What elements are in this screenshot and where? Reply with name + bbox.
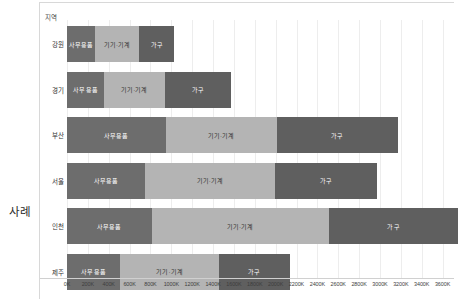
x-tick-label: 2400K: [310, 281, 325, 287]
bar-segment[interactable]: 기기·기계: [95, 26, 139, 62]
x-tick-label: 2200K: [289, 281, 304, 287]
bar-segment[interactable]: 가구: [139, 26, 174, 62]
row-label: 인천: [40, 221, 64, 231]
bar-segment-label: 가구: [320, 176, 332, 185]
bar-segment[interactable]: 사무용품: [67, 26, 95, 62]
row-label: 서울: [40, 176, 64, 186]
x-tick-label: 600K: [123, 281, 135, 287]
bar-segment-label: 가구: [248, 267, 260, 276]
chart-top-divider: [39, 2, 454, 3]
bar-segment[interactable]: 가구: [165, 72, 231, 108]
x-tick-label: 400K: [103, 281, 115, 287]
bar-segment-label: 사무용품: [97, 222, 121, 231]
bar-segment-label: 기기·기계: [121, 85, 148, 94]
bar-segment[interactable]: 기기·기계: [104, 72, 165, 108]
x-tick-label: 1200K: [185, 281, 200, 287]
bar-segment[interactable]: 가구: [329, 208, 458, 244]
row-label: 제주: [40, 267, 64, 277]
stacked-bar[interactable]: 사무용품기기·기계가구: [67, 163, 377, 199]
x-tick-label: 1400K: [205, 281, 220, 287]
bar-segment[interactable]: 기기·기계: [145, 163, 274, 199]
bar-segment-label: 가구: [151, 40, 163, 49]
x-tick-label: 1800K: [247, 281, 262, 287]
stacked-bar[interactable]: 사무용품기기·기계가구: [67, 26, 174, 62]
bar-segment-label: 사무용품: [69, 40, 93, 49]
bar-segment-label: 기기·기계: [197, 176, 224, 185]
row-label: 부산: [40, 130, 64, 140]
bar-segment[interactable]: 사무용품: [67, 72, 104, 108]
row-field-caption: 사례: [3, 203, 37, 219]
x-tick-label: 3400K: [414, 281, 429, 287]
bar-segment[interactable]: 사무용품: [67, 208, 152, 244]
bar-segment-label: 사무용품: [104, 131, 128, 140]
x-tick-label: 2600K: [331, 281, 346, 287]
x-tick-label: 1600K: [226, 281, 241, 287]
bar-segment-label: 기기·기계: [156, 267, 183, 276]
bar-segment[interactable]: 사무용품: [67, 163, 145, 199]
bar-segment-label: 기기·기계: [104, 40, 131, 49]
bar-segment-label: 사무용품: [94, 176, 118, 185]
x-tick-label: 200K: [82, 281, 94, 287]
x-tick-label: 3000K: [372, 281, 387, 287]
x-tick-label: 2000K: [268, 281, 283, 287]
bar-row: 인천사무용품기기·기계가구: [40, 208, 454, 244]
x-tick-label: 1000K: [164, 281, 179, 287]
row-label: 강원: [40, 39, 64, 49]
x-tick-label: 3200K: [393, 281, 408, 287]
bar-segment[interactable]: 기기·기계: [166, 117, 277, 153]
bar-segment[interactable]: 기기·기계: [152, 208, 329, 244]
bar-segment-label: 사무용품: [73, 85, 97, 94]
bar-segment-label: 가구: [331, 131, 343, 140]
stacked-bar[interactable]: 사무용품기기·기계가구: [67, 72, 231, 108]
bar-row: 부산사무용품기기·기계가구: [40, 117, 454, 153]
stacked-bar[interactable]: 사무용품기기·기계가구: [67, 117, 398, 153]
bar-row: 강원사무용품기기·기계가구: [40, 26, 454, 62]
x-tick-label: 800K: [144, 281, 156, 287]
bar-segment-label: 기기·기계: [227, 222, 254, 231]
bar-segment[interactable]: 가구: [277, 117, 399, 153]
row-label: 경기: [40, 85, 64, 95]
bar-segment-label: 기기·기계: [208, 131, 235, 140]
bar-row: 서울사무용품기기·기계가구: [40, 163, 454, 199]
plot-area: 강원사무용품기기·기계가구경기사무용품기기·기계가구부산사무용품기기·기계가구서…: [40, 20, 454, 278]
x-tick-label: 0K: [64, 281, 71, 287]
x-tick-label: 3600K: [435, 281, 450, 287]
bar-segment-label: 가구: [192, 85, 204, 94]
bar-segment-label: 사무용품: [81, 267, 105, 276]
x-tick-label: 2800K: [351, 281, 366, 287]
bar-segment[interactable]: 가구: [275, 163, 377, 199]
x-axis-rule: [40, 278, 454, 279]
bar-segment[interactable]: 사무용품: [67, 117, 166, 153]
stacked-bar[interactable]: 사무용품기기·기계가구: [67, 208, 458, 244]
bar-segment-label: 가구: [387, 222, 399, 231]
x-axis: 0K200K400K600K800K1000K1200K1400K1600K18…: [40, 278, 454, 296]
bar-row: 경기사무용품기기·기계가구: [40, 72, 454, 108]
